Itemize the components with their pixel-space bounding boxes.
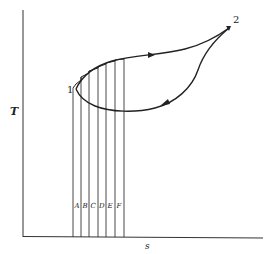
strip-label-a: A — [74, 202, 80, 210]
point-2-label: 2 — [233, 14, 239, 25]
x-axis-label: s — [145, 241, 150, 251]
strip-label-b: B — [82, 202, 88, 210]
strip-label-d: D — [98, 202, 105, 210]
point-1-label: 1 — [67, 84, 73, 95]
y-axis-label: T — [10, 105, 19, 118]
x-axis — [23, 237, 263, 239]
arrow-right-icon — [148, 52, 155, 58]
ts-diagram: 1 2 T s A B C D E F — [0, 0, 272, 254]
process-curve-upper — [76, 28, 229, 89]
strip-lines — [73, 58, 124, 237]
process-curve-lower — [76, 28, 229, 111]
strip-label-c: C — [91, 202, 97, 210]
strip-label-f: F — [116, 202, 123, 210]
arrow-down-left-icon — [160, 99, 170, 106]
strip-label-e: E — [107, 202, 113, 210]
